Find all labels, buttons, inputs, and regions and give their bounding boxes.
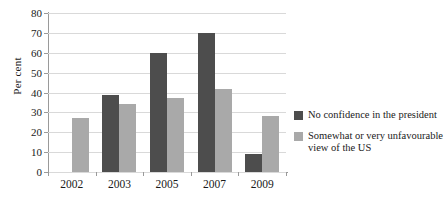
legend-entry: No confidence in the president: [294, 109, 444, 122]
x-axis-tick-mark: [286, 172, 287, 176]
bar: [198, 33, 215, 172]
y-axis-tick-label: 20: [2, 127, 42, 137]
bar: [119, 104, 136, 172]
y-axis-tick-label: 30: [2, 107, 42, 117]
y-axis-tick-label: 50: [2, 68, 42, 78]
x-axis-tick-mark: [238, 172, 239, 176]
x-axis-tick-label: 2003: [95, 178, 143, 191]
legend-swatch: [294, 132, 303, 141]
y-axis-tick-label: 10: [2, 147, 42, 157]
y-axis-tick-label: 60: [2, 48, 42, 58]
x-axis-tick-mark: [96, 172, 97, 176]
bar: [215, 89, 232, 172]
plot-area: [48, 13, 286, 172]
legend-entry: Somewhat or very unfavourable view of th…: [294, 130, 444, 155]
y-axis-tick-label: 0: [2, 167, 42, 177]
bar: [262, 116, 279, 172]
bar: [245, 154, 262, 172]
bar: [102, 95, 119, 173]
bar-group: [238, 13, 286, 172]
bar-group: [143, 13, 191, 172]
y-axis-tick-label: 80: [2, 8, 42, 18]
x-axis-tick-label: 2005: [143, 178, 191, 191]
bar-chart: Per cent 80706050403020100 2002200320052…: [0, 0, 446, 197]
bar: [72, 118, 89, 172]
x-axis-tick-label: 2002: [48, 178, 96, 191]
gridline: [48, 172, 286, 173]
y-axis-tick-label: 40: [2, 88, 42, 98]
x-axis-tick-mark: [143, 172, 144, 176]
legend-label: No confidence in the president: [308, 109, 437, 120]
bar: [167, 98, 184, 172]
x-axis-tick-mark: [48, 172, 49, 176]
x-axis-tick-label: 2009: [238, 178, 286, 191]
bar-group: [48, 13, 96, 172]
x-axis-tick-mark: [191, 172, 192, 176]
y-axis-tick-label: 70: [2, 28, 42, 38]
legend-swatch: [294, 111, 303, 120]
bar-group: [96, 13, 144, 172]
legend: No confidence in the presidentSomewhat o…: [294, 109, 444, 163]
bar: [150, 53, 167, 172]
bar-group: [191, 13, 239, 172]
x-axis-tick-label: 2007: [191, 178, 239, 191]
legend-label: Somewhat or very unfavourable view of th…: [308, 130, 443, 154]
